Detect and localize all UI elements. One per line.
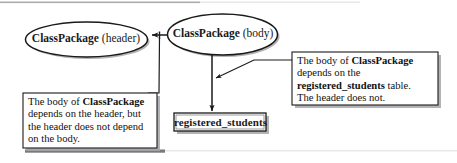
scan-artifact-top-fade: [200, 2, 360, 3]
right-note-text: The body of ClassPackagedepends on there…: [297, 55, 437, 104]
scan-artifact-bottom-fade: [165, 150, 457, 151]
body-ellipse-label: ClassPackage (body): [168, 28, 278, 40]
note-plain: the header does not depend: [28, 121, 143, 132]
note-line: The body of ClassPackage: [297, 55, 437, 67]
body-ellipse-name: ClassPackage: [173, 27, 240, 39]
note-line: The header does not.: [297, 92, 437, 104]
note-plain: on the body.: [28, 133, 80, 144]
header-ellipse-label: ClassPackage (header): [25, 33, 147, 45]
header-ellipse-name: ClassPackage: [32, 32, 99, 44]
note-plain: depends on the: [297, 67, 361, 78]
body-ellipse-qualifier: (body): [240, 27, 274, 39]
note-plain: The body of: [297, 55, 351, 66]
note-line: registered_students table.: [297, 80, 437, 92]
note-plain: table.: [385, 80, 411, 91]
note-line: on the body.: [28, 133, 156, 145]
header-ellipse-qualifier: (header): [99, 32, 140, 44]
note-plain: The body of: [28, 96, 82, 107]
note-line: depends on the: [297, 67, 437, 79]
note-emphasis: ClassPackage: [82, 96, 144, 107]
note-line: the header does not depend: [28, 121, 156, 133]
table-node-label: registered_students: [174, 117, 266, 128]
edge-left-note-leader: [148, 37, 160, 93]
left-note-text: The body of ClassPackagedepends on the h…: [28, 96, 156, 145]
note-plain: depends on the header, but: [28, 108, 141, 119]
note-plain: The header does not.: [297, 92, 385, 103]
note-line: The body of ClassPackage: [28, 96, 156, 108]
note-emphasis: ClassPackage: [351, 55, 413, 66]
note-emphasis: registered_students: [297, 80, 385, 91]
scan-artifact-top: [0, 2, 200, 4]
diagram-canvas: ClassPackage (header) ClassPackage (body…: [0, 0, 457, 163]
edge-right-note-leader: [216, 60, 292, 78]
note-line: depends on the header, but: [28, 108, 156, 120]
